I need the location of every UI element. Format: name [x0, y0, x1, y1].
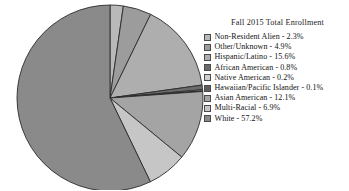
legend-item[interactable]: White - 57.2%: [204, 114, 349, 124]
legend-color-swatch: [204, 64, 211, 71]
legend-item-label: Multi-Racial - 6.9%: [215, 103, 281, 113]
legend-item-label: Hispanic/Latino - 15.6%: [215, 52, 296, 62]
pie-chart-plot-area: [13, 2, 208, 190]
legend-item-label: White - 57.2%: [215, 114, 263, 124]
legend-item[interactable]: Other/Unknown - 4.9%: [204, 42, 349, 52]
legend-color-swatch: [204, 105, 211, 112]
legend-item[interactable]: Non-Resident Alien - 2.3%: [204, 32, 349, 42]
pie-chart-svg: [13, 2, 208, 190]
legend-item[interactable]: Multi-Racial - 6.9%: [204, 103, 349, 113]
pie-chart-figure: Fall 2015 Total Enrollment Non-Resident …: [0, 0, 349, 191]
legend-color-swatch: [204, 54, 211, 61]
legend-item-label: Non-Resident Alien - 2.3%: [215, 32, 304, 42]
legend-item-label: Native American - 0.2%: [215, 73, 295, 83]
legend-item[interactable]: African American - 0.8%: [204, 63, 349, 73]
legend-color-swatch: [204, 44, 211, 51]
legend-item-label: Other/Unknown - 4.9%: [215, 42, 292, 52]
legend-item-label: Hawaiian/Pacific Islander - 0.1%: [215, 83, 324, 93]
pie-slice-group: [17, 5, 203, 190]
legend-item-list: Non-Resident Alien - 2.3%Other/Unknown -…: [196, 32, 349, 124]
chart-title: Fall 2015 Total Enrollment: [206, 18, 349, 27]
legend-color-swatch: [204, 95, 211, 102]
legend-color-swatch: [204, 115, 211, 122]
legend-item[interactable]: Asian American - 12.1%: [204, 93, 349, 103]
legend-item[interactable]: Hawaiian/Pacific Islander - 0.1%: [204, 83, 349, 93]
legend-color-swatch: [204, 85, 211, 92]
legend-color-swatch: [204, 34, 211, 41]
legend-item-label: Asian American - 12.1%: [215, 93, 296, 103]
chart-legend: Fall 2015 Total Enrollment Non-Resident …: [196, 18, 349, 124]
legend-item-label: African American - 0.8%: [215, 63, 298, 73]
legend-item[interactable]: Native American - 0.2%: [204, 73, 349, 83]
legend-color-swatch: [204, 74, 211, 81]
legend-item[interactable]: Hispanic/Latino - 15.6%: [204, 52, 349, 62]
